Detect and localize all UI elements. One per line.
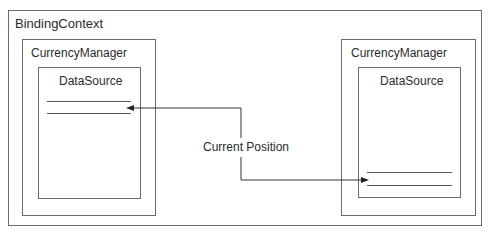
current-position-connector	[0, 0, 499, 239]
arrowhead-right-icon	[361, 177, 369, 183]
arrowhead-left-icon	[126, 105, 134, 111]
current-position-label: Current Position	[203, 140, 289, 154]
